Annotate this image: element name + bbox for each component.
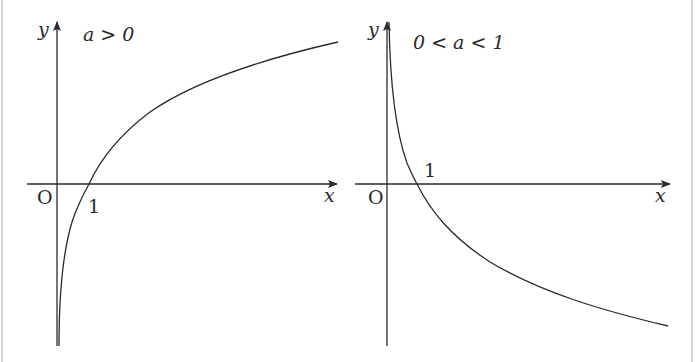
left-intercept-label: 1 [88,195,100,217]
right-panel: y 0 < a < 1 O 1 x [355,18,670,346]
left-x-label: x [324,184,335,206]
left-condition: a > 0 [83,23,134,45]
right-y-label: y [367,18,379,40]
right-x-label: x [655,184,666,206]
left-curve [59,42,338,346]
right-condition: 0 < a < 1 [413,31,505,53]
right-intercept-label: 1 [424,159,436,181]
right-origin-label: O [368,186,384,208]
left-panel: y a > 0 O 1 x [27,18,338,346]
graphs-svg: y a > 0 O 1 x y 0 < a < 1 O 1 x [0,0,695,362]
figure-frame: y a > 0 O 1 x y 0 < a < 1 O 1 x [0,0,695,362]
left-y-label: y [37,18,49,40]
left-origin-label: O [37,186,53,208]
